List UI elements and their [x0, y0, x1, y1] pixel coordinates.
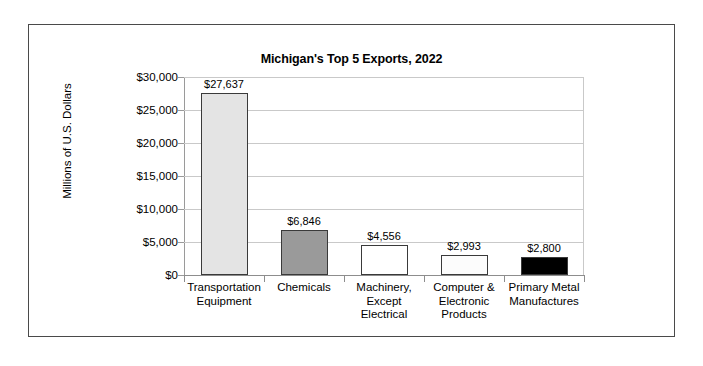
x-category-label-line: Electrical: [338, 308, 430, 322]
x-category-label-line: Manufactures: [498, 295, 590, 309]
bar[interactable]: [521, 257, 568, 275]
chart-frame: Michigan's Top 5 Exports, 2022 Millions …: [28, 24, 675, 337]
x-category-label-line: Transportation: [178, 281, 270, 295]
plot-area: $27,637$6,846$4,556$2,993$2,800: [184, 77, 584, 275]
x-category-label-line: Equipment: [178, 295, 270, 309]
x-category-label-line: Except: [338, 295, 430, 309]
bar-value-label: $2,993: [447, 240, 481, 252]
chart-title: Michigan's Top 5 Exports, 2022: [29, 52, 674, 66]
bar-value-label: $2,800: [527, 242, 561, 254]
y-axis-tickmark: [178, 209, 184, 210]
x-category-label-line: Machinery,: [338, 281, 430, 295]
bar-value-label: $4,556: [367, 230, 401, 242]
y-axis-tick-label: $20,000: [84, 137, 178, 149]
x-axis-category-label: Machinery,ExceptElectrical: [338, 281, 430, 322]
y-axis-tickmark: [178, 242, 184, 243]
y-axis-tick-label: $0: [84, 269, 178, 281]
bar[interactable]: [201, 93, 248, 275]
x-category-label-line: Chemicals: [258, 281, 350, 295]
x-axis-category-label: Chemicals: [258, 281, 350, 295]
x-axis-category-label: Computer &ElectronicProducts: [418, 281, 510, 322]
y-axis-title: Millions of U.S. Dollars: [61, 51, 73, 231]
gridline: [184, 275, 584, 276]
x-axis-category-labels: TransportationEquipmentChemicalsMachiner…: [184, 281, 584, 333]
y-axis-tick-label: $15,000: [84, 170, 178, 182]
x-axis-category-label: Primary MetalManufactures: [498, 281, 590, 308]
bar[interactable]: [361, 245, 408, 275]
bar-value-label: $6,846: [287, 215, 321, 227]
x-category-label-line: Computer &: [418, 281, 510, 295]
y-axis-tickmark: [178, 110, 184, 111]
y-axis-tick-label: $5,000: [84, 236, 178, 248]
y-axis-tickmark: [178, 77, 184, 78]
y-axis-tickmark: [178, 176, 184, 177]
x-category-label-line: Primary Metal: [498, 281, 590, 295]
gridline: [184, 77, 584, 78]
y-axis-tick-label: $10,000: [84, 203, 178, 215]
bar[interactable]: [281, 230, 328, 275]
x-axis-category-label: TransportationEquipment: [178, 281, 270, 308]
y-axis-tick-label: $30,000: [84, 71, 178, 83]
y-axis-tick-labels: $0$5,000$10,000$15,000$20,000$25,000$30,…: [84, 77, 178, 275]
x-category-label-line: Electronic: [418, 295, 510, 309]
y-axis-tickmark: [178, 143, 184, 144]
y-axis-tick-label: $25,000: [84, 104, 178, 116]
bar-value-label: $27,637: [204, 78, 244, 90]
x-category-label-line: Products: [418, 308, 510, 322]
bar[interactable]: [441, 255, 488, 275]
